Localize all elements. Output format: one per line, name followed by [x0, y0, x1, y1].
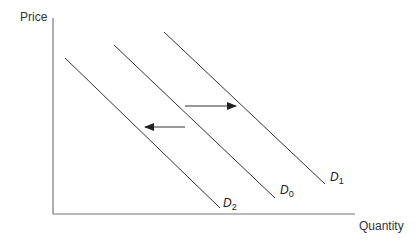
curve-label-d1: D1: [330, 170, 344, 186]
y-axis-label: Price: [20, 10, 47, 24]
demand-curve-d1: [164, 32, 325, 184]
curve-label-d2: D2: [223, 196, 237, 212]
demand-curve-d0: [114, 45, 275, 198]
x-axis-label: Quantity: [359, 219, 404, 233]
demand-shift-diagram: [0, 0, 419, 240]
demand-curve-d2: [65, 58, 220, 208]
curve-label-d0: D0: [280, 183, 294, 199]
